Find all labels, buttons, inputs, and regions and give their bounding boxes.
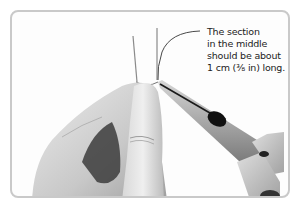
caption-line: 1 cm (⅜ in) long. [207, 62, 290, 74]
needle-nose-pliers [158, 80, 284, 198]
illustration-frame: The section in the middle should be abou… [10, 10, 290, 198]
caption-line: should be about [207, 50, 290, 62]
annotation-caption: The section in the middle should be abou… [207, 26, 290, 74]
hand [32, 82, 167, 198]
annotation-pointer-line [158, 31, 200, 80]
caption-line: The section [207, 26, 290, 38]
caption-line: in the middle [207, 38, 290, 50]
wire-ends [133, 28, 158, 85]
